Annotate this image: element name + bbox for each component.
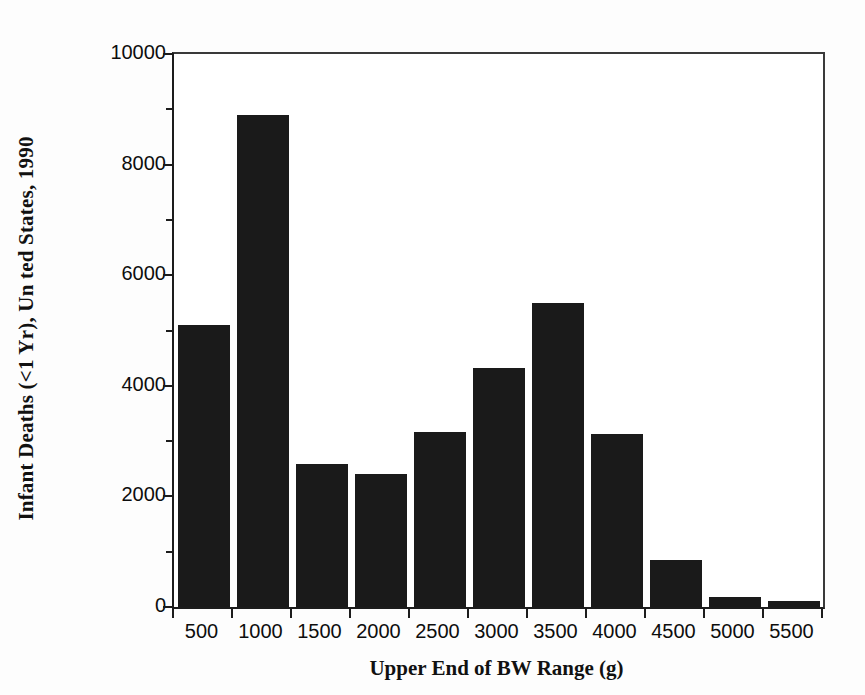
x-axis-tick-label: 3000 bbox=[474, 620, 519, 643]
x-axis-tick-labels: 5001000150020002500300035004000450050005… bbox=[172, 620, 821, 650]
plot-area bbox=[172, 52, 825, 609]
y-axis-minor-tick bbox=[166, 219, 174, 221]
y-axis-tick-label: 2000 bbox=[62, 483, 166, 506]
y-axis-minor-tick bbox=[166, 330, 174, 332]
x-axis-tick-label: 500 bbox=[185, 620, 218, 643]
x-axis-tick bbox=[467, 607, 469, 618]
bar bbox=[473, 368, 525, 607]
x-axis-tick-label: 3500 bbox=[533, 620, 578, 643]
x-axis-tick bbox=[526, 607, 528, 618]
bar bbox=[296, 464, 348, 607]
y-axis-tick-label: 0 bbox=[62, 594, 166, 617]
bar bbox=[650, 560, 702, 607]
x-axis-tick-label: 5500 bbox=[769, 620, 814, 643]
bar-series bbox=[174, 54, 823, 607]
x-axis-tick bbox=[349, 607, 351, 618]
x-axis-tick bbox=[290, 607, 292, 618]
x-axis-tick-label: 2500 bbox=[415, 620, 460, 643]
x-axis-title: Upper End of BW Range (g) bbox=[172, 656, 821, 681]
bar bbox=[178, 325, 230, 607]
x-axis-tick bbox=[644, 607, 646, 618]
x-axis-tick-label: 4000 bbox=[592, 620, 637, 643]
y-axis-major-tick bbox=[163, 53, 174, 55]
x-axis-tick bbox=[231, 607, 233, 618]
y-axis-major-tick bbox=[163, 495, 174, 497]
y-axis-tick-label: 6000 bbox=[62, 262, 166, 285]
y-axis-title-container: Infant Deaths (<1 Yr), Un ted States, 19… bbox=[0, 52, 52, 605]
y-axis-minor-tick bbox=[166, 108, 174, 110]
y-axis-tick-label: 8000 bbox=[62, 151, 166, 174]
y-axis-tick-labels: 0200040006000800010000 bbox=[56, 0, 166, 695]
x-axis-tick-label: 1500 bbox=[297, 620, 342, 643]
bar bbox=[532, 303, 584, 607]
bar bbox=[709, 597, 761, 608]
chart-figure: Infant Deaths (<1 Yr), Un ted States, 19… bbox=[0, 0, 865, 695]
y-axis-major-tick bbox=[163, 164, 174, 166]
y-axis-minor-tick bbox=[166, 551, 174, 553]
x-axis-tick bbox=[703, 607, 705, 618]
x-axis-tick-label: 4500 bbox=[651, 620, 696, 643]
x-axis-tick-label: 5000 bbox=[710, 620, 755, 643]
x-axis-tick-label: 2000 bbox=[356, 620, 401, 643]
x-axis-tick bbox=[408, 607, 410, 618]
y-axis-tick-label: 10000 bbox=[62, 41, 166, 64]
y-axis-tick-label: 4000 bbox=[62, 372, 166, 395]
x-axis-tick bbox=[821, 607, 823, 618]
x-axis-tick bbox=[585, 607, 587, 618]
bar bbox=[237, 115, 289, 607]
y-axis-title: Infant Deaths (<1 Yr), Un ted States, 19… bbox=[14, 136, 39, 520]
y-axis-major-tick bbox=[163, 274, 174, 276]
bar bbox=[591, 434, 643, 607]
x-axis-tick-label: 1000 bbox=[238, 620, 283, 643]
x-axis-tick bbox=[762, 607, 764, 618]
y-axis-major-tick bbox=[163, 385, 174, 387]
x-axis-ticks bbox=[172, 607, 823, 621]
bar bbox=[355, 474, 407, 607]
x-axis-tick bbox=[172, 607, 174, 618]
bar bbox=[414, 432, 466, 607]
y-axis-minor-tick bbox=[166, 440, 174, 442]
